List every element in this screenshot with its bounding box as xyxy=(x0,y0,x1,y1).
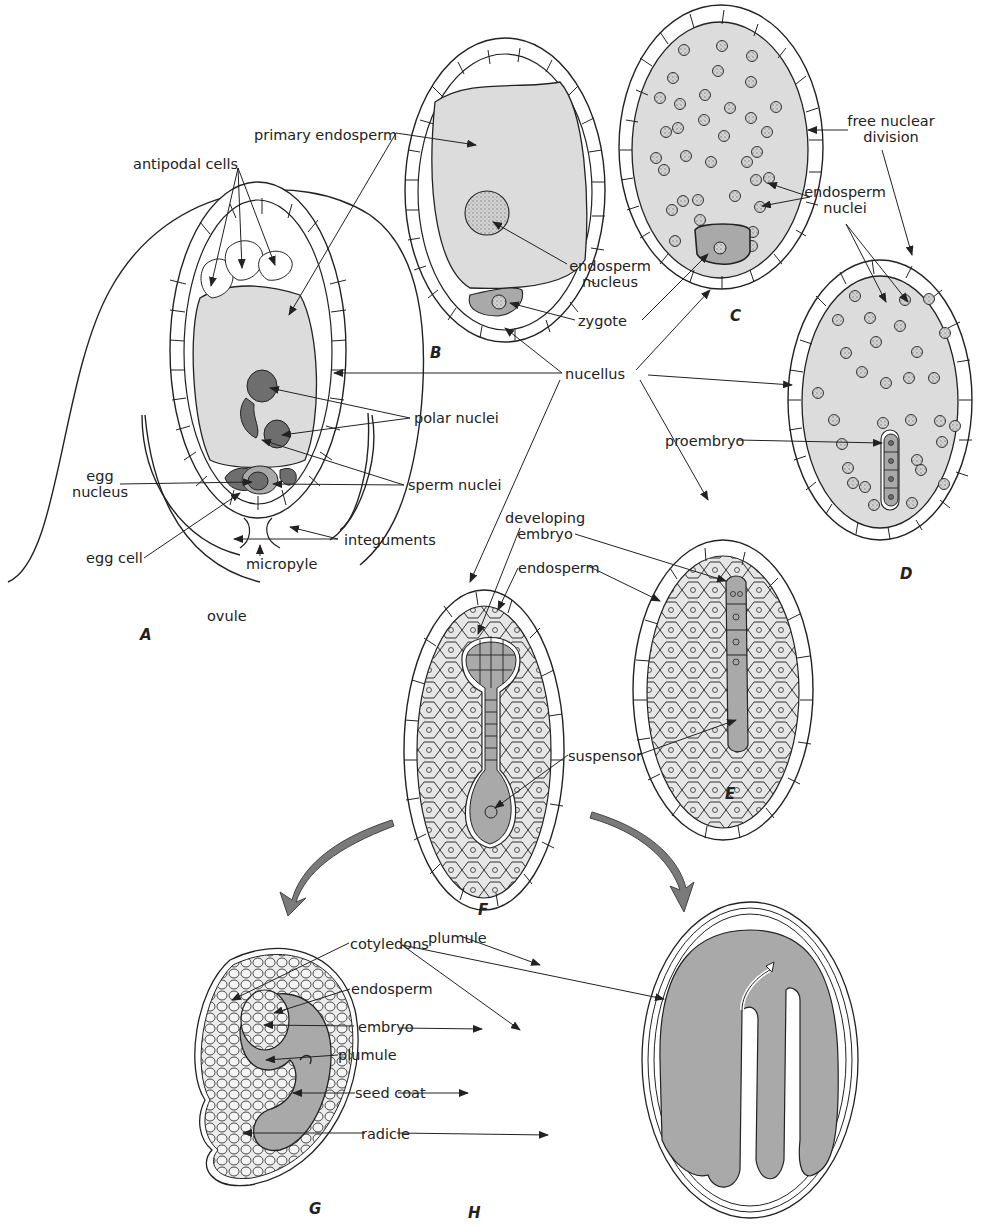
label-egg-cell: egg cell xyxy=(86,550,143,566)
label-antipodal-cells: antipodal cells xyxy=(133,156,238,172)
panel-g xyxy=(195,948,358,1185)
panel-c xyxy=(619,5,823,289)
label-plumule-h: plumule xyxy=(428,930,487,946)
label-cotyledons: cotyledons xyxy=(350,936,429,952)
label-endosperm-nucleus: endosperm nucleus xyxy=(565,258,655,290)
label-developing-embryo-line1: developing xyxy=(505,510,585,526)
panel-letter-f: F xyxy=(478,901,488,919)
label-egg-nucleus-line2: nucleus xyxy=(70,484,130,500)
label-developing-embryo: developing embryo xyxy=(505,510,585,542)
panel-a-ovule xyxy=(8,182,423,582)
panel-letter-d: D xyxy=(900,565,912,583)
panel-e xyxy=(633,540,813,840)
panel-d xyxy=(788,260,972,540)
label-proembryo: proembryo xyxy=(665,433,744,449)
label-micropyle: micropyle xyxy=(246,556,317,572)
panel-letter-a: A xyxy=(140,626,152,644)
label-developing-embryo-line2: embryo xyxy=(505,526,585,542)
label-endosperm-nucleus-line2: nucleus xyxy=(565,274,655,290)
label-polar-nuclei: polar nuclei xyxy=(414,410,499,426)
panel-h xyxy=(642,902,858,1218)
label-free-nuclear-division-line2: division xyxy=(836,129,946,145)
label-zygote: zygote xyxy=(578,313,627,329)
panel-f xyxy=(404,590,564,910)
label-egg-nucleus: egg nucleus xyxy=(70,468,130,500)
process-arrow-to-h xyxy=(590,812,694,912)
label-free-nuclear-division-line1: free nuclear xyxy=(836,113,946,129)
panel-letter-c: C xyxy=(730,307,741,325)
label-endosperm-g: endosperm xyxy=(351,981,433,997)
label-nucellus: nucellus xyxy=(565,366,625,382)
label-suspensor: suspensor xyxy=(568,748,642,764)
label-free-nuclear-division: free nuclear division xyxy=(836,113,946,145)
process-arrow-to-g xyxy=(280,820,394,916)
panel-b xyxy=(405,38,605,342)
label-integuments: integuments xyxy=(344,532,436,548)
panel-letter-g: G xyxy=(309,1200,321,1218)
label-ovule: ovule xyxy=(207,608,247,624)
label-endosperm-nucleus-line1: endosperm xyxy=(565,258,655,274)
label-endosperm-nuclei: endosperm nuclei xyxy=(800,184,890,216)
panel-letter-e: E xyxy=(725,785,735,803)
label-endosperm-nuclei-line2: nuclei xyxy=(800,200,890,216)
label-endosperm-f: endosperm xyxy=(518,560,600,576)
panel-letter-h: H xyxy=(468,1204,481,1222)
label-seed-coat: seed coat xyxy=(355,1085,426,1101)
label-sperm-nuclei: sperm nuclei xyxy=(408,477,501,493)
label-plumule-g: plumule xyxy=(338,1047,397,1063)
label-endosperm-nuclei-line1: endosperm xyxy=(800,184,890,200)
panel-letter-b: B xyxy=(430,344,441,362)
label-radicle: radicle xyxy=(361,1126,410,1142)
label-primary-endosperm: primary endosperm xyxy=(254,127,397,143)
label-egg-nucleus-line1: egg xyxy=(70,468,130,484)
label-embryo: embryo xyxy=(358,1019,414,1035)
